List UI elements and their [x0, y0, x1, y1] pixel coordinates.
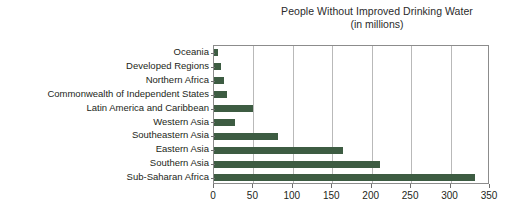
y-axis-label: Developed Regions [0, 59, 209, 73]
plot-area [213, 45, 489, 184]
bar-row [214, 88, 490, 102]
y-axis-label: Western Asia [0, 115, 209, 129]
y-axis-label: Oceania [0, 45, 209, 59]
bar-row [214, 60, 490, 74]
y-axis-tick [211, 53, 215, 54]
bar-row [214, 171, 490, 185]
bar-southern-asia [214, 161, 380, 168]
bar-chart-figure: People Without Improved Drinking Water (… [0, 0, 523, 214]
bar-western-asia [214, 119, 235, 126]
bar-row [214, 157, 490, 171]
bar-latin-america-and-caribbean [214, 105, 253, 112]
y-axis-label: Southern Asia [0, 156, 209, 170]
y-axis-tick [211, 109, 215, 110]
x-axis-tick-label: 0 [193, 190, 233, 201]
bar-developed-regions [214, 63, 221, 70]
bars-layer [214, 46, 488, 183]
x-axis-tick-250 [410, 184, 411, 188]
x-axis-tick-50 [252, 184, 253, 188]
bar-southeastern-asia [214, 133, 278, 140]
bar-sub-saharan-africa [214, 174, 475, 181]
x-axis-tick-label: 350 [469, 190, 509, 201]
y-axis-tick [211, 81, 215, 82]
y-axis-label: Commonwealth of Independent States [0, 87, 209, 101]
y-axis-tick [211, 67, 215, 68]
y-axis-label: Sub-Saharan Africa [0, 170, 209, 184]
x-axis-tick-100 [292, 184, 293, 188]
chart-title: People Without Improved Drinking Water (… [236, 5, 518, 31]
y-axis-tick [211, 136, 215, 137]
bar-commonwealth-of-independent-states [214, 91, 227, 98]
x-axis-tick-label: 300 [430, 190, 470, 201]
y-axis-tick [211, 178, 215, 179]
chart-title-subtitle: (in millions) [236, 18, 518, 31]
bar-row [214, 74, 490, 88]
bar-row [214, 143, 490, 157]
y-axis-category-labels: OceaniaDeveloped RegionsNorthern AfricaC… [0, 45, 209, 184]
y-axis-tick [211, 95, 215, 96]
y-axis-label: Eastern Asia [0, 142, 209, 156]
x-axis-tick-200 [371, 184, 372, 188]
x-axis-tick-label: 200 [351, 190, 391, 201]
y-axis-tick [211, 164, 215, 165]
bar-row [214, 102, 490, 116]
bar-row [214, 129, 490, 143]
bar-row [214, 46, 490, 60]
x-axis-tick-label: 50 [232, 190, 272, 201]
bar-northern-africa [214, 77, 224, 84]
y-axis-label: Northern Africa [0, 73, 209, 87]
x-axis-tick-label: 150 [311, 190, 351, 201]
chart-title-main: People Without Improved Drinking Water [236, 5, 518, 18]
y-axis-tick [211, 122, 215, 123]
x-axis-tick-0 [213, 184, 214, 188]
x-axis: 050100150200250300350 [213, 184, 489, 210]
bar-row [214, 116, 490, 130]
x-axis-tick-label: 250 [390, 190, 430, 201]
y-axis-label: Southeastern Asia [0, 128, 209, 142]
x-axis-tick-150 [331, 184, 332, 188]
x-axis-tick-350 [489, 184, 490, 188]
x-axis-tick-label: 100 [272, 190, 312, 201]
y-axis-label: Latin America and Caribbean [0, 101, 209, 115]
x-axis-tick-300 [450, 184, 451, 188]
bar-eastern-asia [214, 147, 343, 154]
y-axis-tick [211, 150, 215, 151]
